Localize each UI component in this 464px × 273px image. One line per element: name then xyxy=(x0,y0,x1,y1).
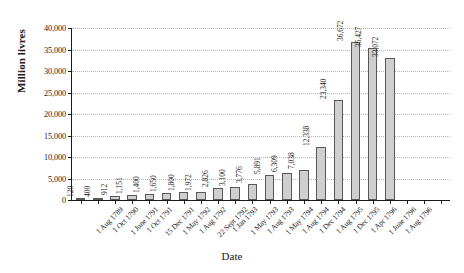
bar-value-label: 2,826 xyxy=(201,170,210,187)
y-axis-tick-label: 40,000 xyxy=(44,24,66,33)
bar[interactable]: 2,826 xyxy=(213,188,223,200)
bar[interactable]: 1,650 xyxy=(162,193,172,200)
y-axis-tick-label: 15,000 xyxy=(44,131,66,140)
y-axis-tick-label: 20,000 xyxy=(44,110,66,119)
bar-value-label: 3,100 xyxy=(218,169,227,186)
x-axis-tick-mark xyxy=(167,200,168,204)
x-axis-tick-mark xyxy=(321,200,322,204)
bar[interactable]: 6,309 xyxy=(282,173,292,200)
bar-value-label: 6,309 xyxy=(269,155,278,172)
x-axis-tick-mark xyxy=(81,200,82,204)
bar-value-label: 7,038 xyxy=(287,152,296,169)
x-axis-tick-mark xyxy=(338,200,339,204)
x-axis-tick-mark xyxy=(270,200,271,204)
plot-area: 05,00010,00015,00020,00025,00030,00035,0… xyxy=(71,28,450,201)
x-axis-tick-mark xyxy=(441,200,442,204)
y-axis-tick-mark xyxy=(68,179,72,180)
bar-value-label: 12,338 xyxy=(302,126,311,146)
x-axis-tick-mark xyxy=(304,200,305,204)
y-axis-tick-mark xyxy=(68,28,72,29)
y-axis-tick-mark xyxy=(68,136,72,137)
y-axis-tick-label: 30,000 xyxy=(44,67,66,76)
x-axis-tick-mark xyxy=(132,200,133,204)
x-axis-tick-mark xyxy=(287,200,288,204)
y-axis-tick-mark xyxy=(68,114,72,115)
bar[interactable]: 23,340 xyxy=(334,100,344,200)
bar[interactable]: 36,672 xyxy=(351,42,361,200)
bar-value-label: 35,427 xyxy=(354,26,363,46)
y-axis-tick-label: 25,000 xyxy=(44,88,66,97)
x-axis-tick-mark xyxy=(356,200,357,204)
gridline xyxy=(72,50,450,51)
x-axis-tick-mark xyxy=(149,200,150,204)
y-axis-tick-mark xyxy=(68,71,72,72)
bar-value-label: 400 xyxy=(83,186,92,197)
bar-value-label: 36,672 xyxy=(336,21,345,41)
x-axis-tick-mark xyxy=(201,200,202,204)
x-axis-title: Date xyxy=(0,250,464,262)
bar-value-label: 120 xyxy=(66,186,75,197)
y-axis-tick-mark xyxy=(68,50,72,51)
y-axis-tick-label: 10,000 xyxy=(44,153,66,162)
bar-value-label: 912 xyxy=(100,184,109,195)
bar[interactable]: 3,776 xyxy=(248,184,258,200)
bar-value-label: 1,400 xyxy=(132,176,141,193)
y-axis-tick-label: 5,000 xyxy=(48,174,66,183)
bar[interactable]: 12,338 xyxy=(316,147,326,200)
bar[interactable]: 7,038 xyxy=(299,170,309,200)
x-axis-tick-mark xyxy=(407,200,408,204)
x-axis-tick-mark xyxy=(98,200,99,204)
bar-value-label: 1,800 xyxy=(166,175,175,192)
x-axis-tick-mark xyxy=(115,200,116,204)
y-axis-tick-mark xyxy=(68,200,72,201)
bar-value-label: 23,340 xyxy=(319,78,328,98)
bar[interactable]: 1,800 xyxy=(179,192,189,200)
bar-value-label: 1,151 xyxy=(115,177,124,194)
bar-value-label: 1,650 xyxy=(149,175,158,192)
bar-value-label: 1,972 xyxy=(184,174,193,191)
y-axis-tick-label: 0 xyxy=(62,196,66,205)
bar[interactable]: 35,427 xyxy=(368,48,378,200)
y-axis-title: Million livres xyxy=(15,0,27,126)
bar-value-label: 33,072 xyxy=(371,37,380,57)
bar[interactable]: 3,100 xyxy=(230,187,240,200)
bar[interactable]: 33,072 xyxy=(385,58,395,200)
x-axis-tick-mark xyxy=(252,200,253,204)
bar-value-label: 5,891 xyxy=(252,157,261,174)
bar[interactable]: 5,891 xyxy=(265,175,275,200)
x-axis-tick-mark xyxy=(184,200,185,204)
x-axis-tick-mark xyxy=(424,200,425,204)
y-axis-tick-mark xyxy=(68,93,72,94)
bar-value-label: 3,776 xyxy=(235,166,244,183)
assignat-circulation-bar-chart: Million livres 05,00010,00015,00020,0002… xyxy=(0,0,464,273)
x-axis-tick-mark xyxy=(235,200,236,204)
x-axis-tick-mark xyxy=(390,200,391,204)
x-axis-tick-mark xyxy=(373,200,374,204)
bar[interactable]: 1,972 xyxy=(196,192,206,200)
gridline xyxy=(72,28,450,29)
y-axis-tick-label: 35,000 xyxy=(44,45,66,54)
y-axis-tick-mark xyxy=(68,157,72,158)
x-axis-tick-mark xyxy=(218,200,219,204)
